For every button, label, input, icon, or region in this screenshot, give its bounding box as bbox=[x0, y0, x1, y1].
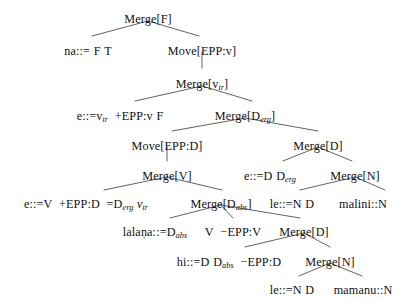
node-merge-dabs: Merge[Dabs] bbox=[190, 198, 251, 212]
node-lex-hi: hi::=DDabs−EPP:D bbox=[177, 256, 281, 270]
node-lex-e-v: e::=V+EPP:D=Dergvtr bbox=[24, 198, 148, 212]
node-merge-v: Merge[V] bbox=[142, 170, 191, 182]
node-lex-le-upper: le::=ND bbox=[270, 198, 315, 210]
node-lex-na: na::=FT bbox=[64, 45, 112, 57]
node-merge-f: Merge[F] bbox=[124, 13, 171, 25]
node-lex-lalana: lalaṇa::=Dabs bbox=[123, 226, 187, 240]
node-move-epp-d: Move[EPP:D] bbox=[131, 140, 202, 152]
node-lex-e-d-derg: e::=DDerg bbox=[244, 170, 296, 184]
node-lex-malini: malini::N bbox=[339, 198, 387, 210]
node-feature-v-epp-v: V−EPP:V bbox=[205, 226, 261, 238]
node-merge-d-lower: Merge[D] bbox=[279, 226, 328, 238]
node-merge-d-upper: Merge[D] bbox=[293, 140, 342, 152]
node-lex-le-lower: le::=ND bbox=[270, 284, 315, 296]
node-lex-mamanu: mamanu::N bbox=[334, 284, 393, 296]
node-merge-n-lower: Merge[N] bbox=[305, 256, 354, 268]
node-merge-vtr: Merge[vtr] bbox=[176, 78, 228, 92]
node-merge-n-upper: Merge[N] bbox=[330, 170, 379, 182]
derivation-tree-figure: Merge[F] na::=FT Move[EPP:v] Merge[vtr] … bbox=[0, 0, 407, 301]
node-move-epp-v: Move[EPP:v] bbox=[168, 45, 236, 57]
node-merge-derg: Merge[Derg] bbox=[215, 110, 275, 124]
node-lex-e-vtr: e::=vtr+EPP:vF bbox=[77, 110, 164, 124]
